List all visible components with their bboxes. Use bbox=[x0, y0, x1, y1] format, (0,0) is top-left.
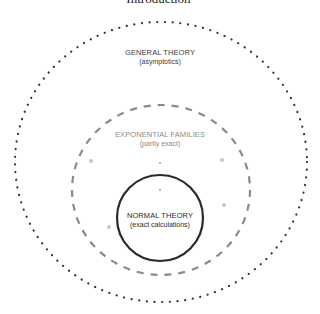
exponential-families-title: EXPONENTIAL FAMILIES bbox=[90, 130, 230, 139]
black-dot bbox=[159, 189, 160, 190]
gray-dot bbox=[220, 158, 224, 162]
gray-dot bbox=[89, 159, 93, 163]
exponential-families-subtitle: (partly exact) bbox=[90, 139, 230, 148]
black-dot bbox=[159, 162, 160, 163]
normal-theory-label: NORMAL THEORY (exact calculations) bbox=[110, 211, 210, 229]
general-theory-label: GENERAL THEORY (asymptotics) bbox=[100, 48, 220, 66]
general-theory-subtitle: (asymptotics) bbox=[100, 57, 220, 66]
normal-theory-subtitle: (exact calculations) bbox=[110, 220, 210, 229]
general-theory-title: GENERAL THEORY bbox=[100, 48, 220, 57]
exponential-families-label: EXPONENTIAL FAMILIES (partly exact) bbox=[90, 130, 230, 148]
normal-theory-title: NORMAL THEORY bbox=[110, 211, 210, 220]
gray-dot bbox=[222, 203, 226, 207]
